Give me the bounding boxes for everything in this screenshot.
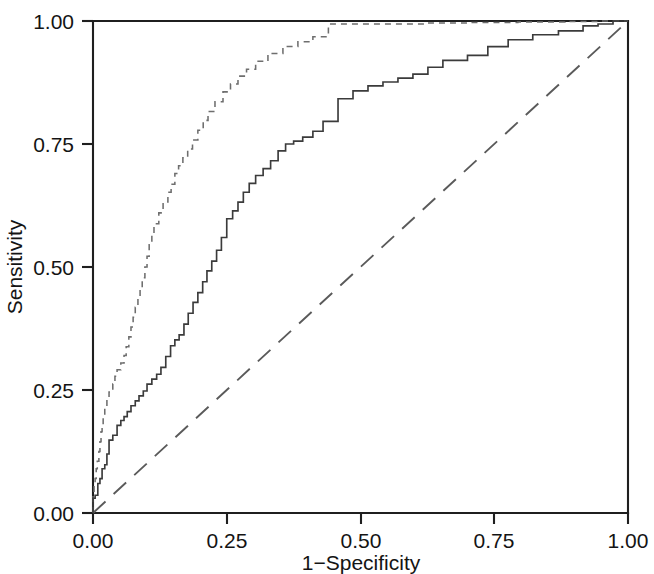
y-axis-ticks: 1.00 0.75 0.50 0.25 0.00 xyxy=(33,10,93,525)
y-tick-label-050: 0.50 xyxy=(33,256,74,279)
y-tick-label-000: 0.00 xyxy=(33,502,74,525)
reference-diagonal-line xyxy=(93,21,628,513)
y-tick-label-100: 1.00 xyxy=(33,10,74,33)
x-axis-title: 1−Specificity xyxy=(302,551,421,574)
x-tick-label-050: 0.50 xyxy=(341,529,382,552)
roc-plot-svg: 1.00 0.75 0.50 0.25 0.00 0.00 0.25 0.50 … xyxy=(0,0,654,574)
curve-layer xyxy=(93,21,628,513)
x-tick-label-100: 1.00 xyxy=(608,529,649,552)
roc-chart-figure: 1.00 0.75 0.50 0.25 0.00 0.00 0.25 0.50 … xyxy=(0,0,654,574)
y-tick-label-075: 0.75 xyxy=(33,133,74,156)
x-tick-label-075: 0.75 xyxy=(474,529,515,552)
y-axis-title: Sensitivity xyxy=(3,219,26,314)
x-axis-ticks: 0.00 0.25 0.50 0.75 1.00 xyxy=(73,513,649,552)
x-tick-label-025: 0.25 xyxy=(207,529,248,552)
x-tick-label-000: 0.00 xyxy=(73,529,114,552)
y-tick-label-025: 0.25 xyxy=(33,379,74,402)
